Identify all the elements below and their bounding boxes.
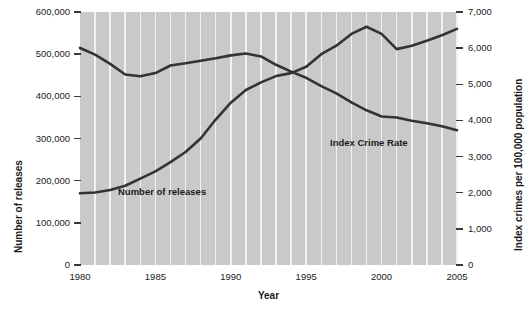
y-right-tickmark-4000 <box>456 120 463 122</box>
y-left-tickmark-200000 <box>74 180 81 182</box>
y-right-tick-label-0: 0 <box>468 259 473 270</box>
x-tick-label-1980: 1980 <box>60 271 100 282</box>
y-left-tick-label-400000: 400,000 <box>36 90 70 101</box>
y-left-tickmark-400000 <box>74 96 81 98</box>
x-tick-label-1985: 1985 <box>135 271 175 282</box>
y-right-tickmark-1000 <box>456 228 463 230</box>
y-axis-left-title: Number of releases <box>13 160 24 253</box>
y-right-tickmark-7000 <box>456 11 463 13</box>
y-right-tickmark-5000 <box>456 84 463 86</box>
y-left-tickmark-600000 <box>74 11 81 13</box>
y-left-tick-label-600000: 600,000 <box>36 6 70 17</box>
y-left-tick-label-0: 0 <box>65 259 70 270</box>
y-right-tickmark-0 <box>456 264 463 266</box>
y-left-tick-label-100000: 100,000 <box>36 217 70 228</box>
y-left-tick-label-500000: 500,000 <box>36 48 70 59</box>
data-series-layer <box>0 0 529 313</box>
y-left-tickmark-300000 <box>74 138 81 140</box>
y-right-tickmark-3000 <box>456 156 463 158</box>
y-right-tick-label-2000: 2,000 <box>468 187 492 198</box>
y-left-tick-label-200000: 200,000 <box>36 175 70 186</box>
y-left-tickmark-0 <box>74 264 81 266</box>
x-axis-title: Year <box>229 290 309 301</box>
y-right-tick-label-3000: 3,000 <box>468 151 492 162</box>
y-left-tick-label-300000: 300,000 <box>36 133 70 144</box>
series-line-index-crime-rate <box>80 48 457 130</box>
y-right-tick-label-7000: 7,000 <box>468 6 492 17</box>
x-tick-label-1995: 1995 <box>286 271 326 282</box>
y-right-tickmark-2000 <box>456 192 463 194</box>
x-tick-label-2000: 2000 <box>362 271 402 282</box>
x-tick-label-2005: 2005 <box>437 271 477 282</box>
series-line-number-of-releases <box>80 27 457 194</box>
y-left-tickmark-500000 <box>74 53 81 55</box>
series-annotation-number-of-releases: Number of releases <box>118 186 206 197</box>
y-left-tickmark-100000 <box>74 222 81 224</box>
series-annotation-index-crime-rate: Index Crime Rate <box>330 137 408 148</box>
y-right-tick-label-1000: 1,000 <box>468 223 492 234</box>
y-right-tick-label-5000: 5,000 <box>468 78 492 89</box>
y-right-tick-label-6000: 6,000 <box>468 42 492 53</box>
chart-figure: 0100,000200,000300,000400,000500,000600,… <box>0 0 529 313</box>
y-right-tick-label-4000: 4,000 <box>468 114 492 125</box>
y-right-tickmark-6000 <box>456 47 463 49</box>
x-tick-label-1990: 1990 <box>211 271 251 282</box>
y-axis-right-title: Index crimes per 100,000 population <box>513 79 524 251</box>
